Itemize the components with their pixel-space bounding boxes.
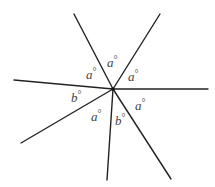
angle-lower-middle-label: b° [115,112,126,128]
ray-upper-left [74,14,113,89]
rays-group [14,14,208,180]
angle-lower-left-label: a° [91,108,102,124]
diagram-canvas: a°a°a°b°a°a°b° [0,0,215,187]
degree-symbol: ° [114,54,118,65]
ray-down [107,89,113,180]
degree-symbol: ° [142,97,146,108]
ray-left [14,80,113,89]
degree-symbol: ° [135,68,139,79]
degree-symbol: ° [98,108,102,119]
angle-upper-left-label: a° [86,66,97,82]
angle-left-label: b° [71,89,82,105]
angle-top-label: a° [107,54,118,70]
center-point [111,87,115,91]
degree-symbol: ° [93,66,97,77]
angle-upper-right-label: a° [128,68,139,84]
degree-symbol: ° [78,89,82,100]
angle-diagram: a°a°a°b°a°a°b° [0,0,215,187]
angle-lower-right-label: a° [135,97,146,113]
degree-symbol: ° [122,112,126,123]
